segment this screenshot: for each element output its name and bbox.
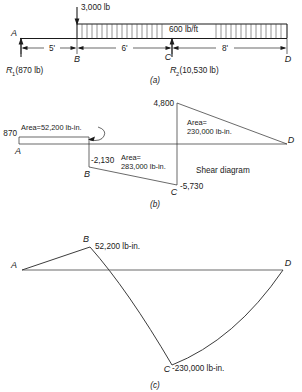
beam-node-label-c: C [165,52,172,62]
reaction-r1-label: R 1 (870 lb) [6,65,44,77]
shear-value-4800: 4,800 [154,99,175,108]
moment-diagram-caption: (c) [150,381,160,390]
dimension-label-6ft: 6' [121,44,128,53]
shear-node-label-c: C [171,187,178,197]
dimension-5ft: 5' [22,44,77,53]
beam-diagrams-figure: 600 lb/ft 3,000 lb A B C D 5' [0,0,302,392]
moment-value-at-b: 52,200 lb-in. [95,242,140,251]
moment-segment-cd [172,270,283,365]
beam-diagram-panel: 600 lb/ft 3,000 lb A B C D 5' [6,3,292,86]
shear-area-label-bc-line2: 283,000 lb-in. [121,162,166,171]
moment-node-label-d: D [285,258,292,268]
beam-node-label-d: D [285,54,292,64]
distributed-load-label: 600 lb/ft [169,25,199,34]
reaction-r2-label: R 2 (10,530 lb) [170,65,219,77]
moment-segment-ab [22,247,90,270]
shear-area-label-ab: Area=52,200 lb-in. [21,123,82,132]
dimension-6ft: 6' [78,44,172,53]
shear-diagram-caption: (b) [150,200,160,209]
moment-node-label-c: C [164,364,171,374]
dimension-8ft: 8' [173,44,287,53]
moment-segment-bc [90,247,172,365]
moment-node-label-b: B [83,234,89,244]
dimension-extension-lines [21,39,287,54]
beam-diagram-caption: (a) [150,76,160,85]
shear-value-minus-2130: -2,130 [91,156,115,165]
reaction-r2-value: (10,530 lb) [180,66,219,75]
moment-node-label-a: A [10,260,17,270]
moment-diagram-panel: A B C D 52,200 lb-in. -230,000 lb-in. (c… [10,234,292,390]
shear-value-870: 870 [3,129,17,138]
distributed-load-hatching-right [216,24,281,39]
shear-value-minus-5730: -5,730 [180,182,204,191]
point-load-label: 3,000 lb [81,3,111,12]
distributed-load-hatching-left [82,24,162,39]
dimension-label-8ft: 8' [222,44,229,53]
reaction-r1-value: (870 lb) [16,66,44,75]
shear-diagram-name: Shear diagram [196,166,250,175]
moment-value-at-c: -230,000 lb-in. [172,364,224,373]
dimension-label-5ft: 5' [49,44,56,53]
shear-area-label-cd-line2: 230,000 lb-in. [187,127,232,136]
figure-root: 600 lb/ft 3,000 lb A B C D 5' [0,0,302,392]
shear-node-label-a: A [14,146,21,156]
shear-diagram-panel: 870 Area=52,200 lb-in. -2,130 Area= 283,… [3,99,294,209]
beam-node-label-b: B [74,54,80,64]
beam-node-label-a: A [10,28,17,38]
shear-node-label-b: B [84,169,90,179]
shear-node-label-d: D [288,135,295,145]
